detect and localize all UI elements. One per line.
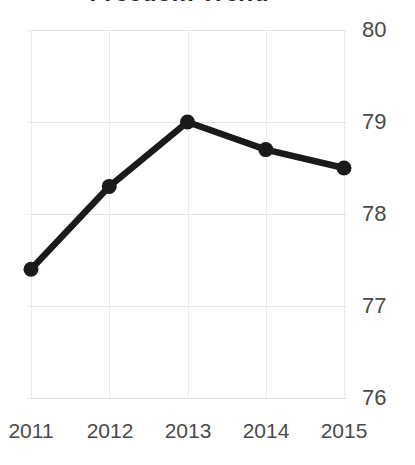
y-tick-label-79: 79 <box>362 111 408 133</box>
y-tick-label-76: 76 <box>362 387 408 409</box>
gridline-x-2011 <box>31 30 32 398</box>
gridline-x-2012 <box>109 30 110 398</box>
x-tick-label-2015: 2015 <box>299 420 389 441</box>
y-tick-label-77: 77 <box>362 295 408 317</box>
gridline-x-2013 <box>188 30 189 398</box>
gridline-y-76 <box>28 398 347 399</box>
chart-title: Freedom Trend <box>0 0 360 7</box>
y-tick-label-80: 80 <box>362 19 408 41</box>
gridline-x-2015 <box>344 30 345 398</box>
y-tick-label-78: 78 <box>362 203 408 225</box>
x-tick-label-2012: 2012 <box>65 420 155 441</box>
x-tick-label-2014: 2014 <box>221 420 311 441</box>
gridline-x-2014 <box>266 30 267 398</box>
plot-area <box>31 30 344 398</box>
x-tick-label-2013: 2013 <box>143 420 233 441</box>
line-chart: Freedom Trend 80 79 78 77 76 2011 2012 2… <box>0 0 415 465</box>
